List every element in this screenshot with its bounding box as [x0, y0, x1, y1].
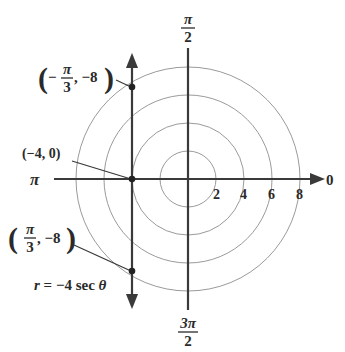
point-label-neg-pi-3-neg-8: ( − π 3 , −8 )	[38, 61, 114, 95]
svg-text:π: π	[26, 221, 35, 237]
angle-label-3pi-over-2: 3π 2	[178, 315, 198, 349]
fraction-numerator: 3π	[179, 315, 197, 331]
svg-text:3: 3	[26, 239, 34, 255]
svg-text:): )	[66, 221, 76, 255]
svg-text:(: (	[38, 61, 48, 95]
angle-label-pi: π	[30, 170, 40, 189]
radius-tick-4: 4	[240, 187, 247, 202]
svg-text:): )	[104, 61, 114, 95]
svg-text:π: π	[63, 61, 72, 77]
equation-label: r = −4 sec θ	[34, 277, 107, 293]
point-neg-pi-3-neg-8	[129, 84, 136, 91]
radius-tick-6: 6	[268, 187, 275, 202]
point-pi-3-neg-8	[129, 268, 136, 275]
angle-label-zero: 0	[326, 172, 334, 188]
point-neg4-0	[129, 176, 136, 183]
svg-text:3: 3	[63, 79, 71, 95]
fraction-numerator: π	[184, 11, 193, 27]
angle-label-pi-over-2: π 2	[181, 11, 195, 45]
svg-text:−: −	[48, 69, 57, 85]
fraction-denominator: 2	[184, 29, 192, 45]
point-label-neg4-0: (−4, 0)	[22, 146, 61, 162]
svg-text:(: (	[8, 221, 18, 255]
leader-line-mid-point	[72, 161, 131, 179]
svg-text:r = −4 sec θ: r = −4 sec θ	[34, 277, 107, 293]
point-label-pi-3-neg-8: ( π 3 , −8 )	[8, 221, 76, 255]
svg-text:, −8: , −8	[37, 230, 61, 246]
fraction-denominator: 2	[184, 333, 192, 349]
leader-line-bottom-point	[74, 245, 131, 271]
svg-text:, −8: , −8	[74, 69, 98, 85]
polar-graph: 0 π π 2 3π 2 2 4 6 8 ( − π 3 , −8 ) (−4,…	[0, 0, 345, 352]
radius-tick-2: 2	[213, 187, 220, 202]
radius-tick-8: 8	[296, 187, 303, 202]
radius-tick-labels: 2 4 6 8	[213, 187, 303, 202]
